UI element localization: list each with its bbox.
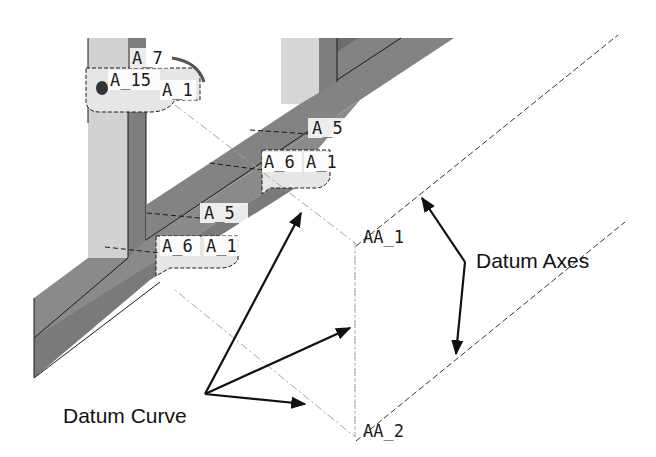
cad-diagram: A_7 A_15 A_1 A_5 A_6 A_1 A_5 A_6 A_1 AA_…	[0, 0, 656, 457]
callout-datum-axes: Datum Axes	[476, 249, 589, 272]
label-low-a5: A_5	[204, 203, 235, 223]
label-top-a7: A_7	[132, 48, 163, 68]
datum-axes-arrow-down	[456, 262, 465, 354]
datum-curve-arrow-3	[205, 394, 305, 404]
label-mid-a6: A_6	[264, 152, 295, 172]
label-mid-a1: A_1	[306, 152, 337, 172]
datum-axes-arrow-up	[422, 198, 465, 262]
label-top-a1: A_1	[162, 80, 193, 100]
label-aa1: AA_1	[363, 227, 404, 247]
label-low-a6: A_6	[162, 236, 193, 256]
datum-curve-arrow-2	[205, 328, 350, 394]
label-low-a1: A_1	[206, 236, 237, 256]
callout-arrows	[205, 198, 465, 404]
callout-datum-curve: Datum Curve	[63, 404, 187, 427]
label-aa2: AA_2	[363, 421, 404, 441]
bolt-head	[96, 81, 108, 95]
label-mid-a5: A_5	[312, 118, 343, 138]
right-post-face	[281, 38, 319, 104]
label-top-a15: A_15	[110, 70, 151, 90]
